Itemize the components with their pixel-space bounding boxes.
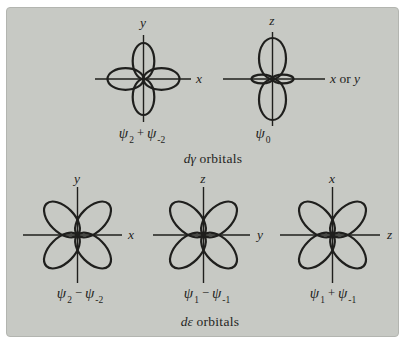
psi-symbol: ψ [310,285,319,301]
axis-label-vertical: z [269,12,274,29]
orbital-plot-d-z2 [223,32,325,126]
d-gamma-caption: dγ orbitals [184,151,243,167]
operator: + [328,286,335,300]
psi-subscript: -2 [157,135,165,145]
formula-psi1-plus-psi-neg1: ψ1+ψ-1 [310,285,356,303]
axis-label-horizontal: x or y [330,70,360,87]
orbital-plot-d-x2-y2 [95,35,191,122]
caption-symbol: dε [181,314,193,329]
formula-psi2-plus-psi-neg2: ψ2+ψ-2 [119,125,165,143]
formula-psi0: ψ0 [255,125,270,143]
orbital-plot-d-xy [23,187,122,283]
psi-subscript: 1 [320,295,325,305]
psi-symbol: ψ [147,125,156,141]
psi-subscript: 0 [266,135,271,145]
psi-symbol: ψ [57,285,66,301]
caption-text: orbitals [193,314,240,329]
axis-label-horizontal: z [387,226,392,243]
axis-label-horizontal: x [128,226,134,243]
psi-symbol: ψ [338,285,347,301]
psi-subscript: 2 [129,135,134,145]
psi-symbol: ψ [255,125,264,141]
psi-symbol: ψ [212,285,221,301]
psi-subscript: -1 [348,295,356,305]
axis-label-horizontal: x [196,70,202,87]
axis-label-vertical: z [200,170,205,187]
psi-subscript: 1 [194,295,199,305]
psi-symbol: ψ [184,285,193,301]
orbital-plot-d-zx [280,187,380,283]
caption-symbol: dγ [184,151,196,166]
axis-label-horizontal: y [257,226,263,243]
formula-psi1-minus-psi-neg1: ψ1−ψ-1 [184,285,230,303]
operator: + [137,126,144,140]
d-epsilon-caption: dε orbitals [181,314,240,330]
axis-letter: x [128,227,134,242]
caption-text: orbitals [196,151,243,166]
axis-label-vertical: y [140,14,146,31]
axis-letter: x [196,71,202,86]
psi-subscript: -1 [222,295,230,305]
operator: − [202,286,209,300]
axis-letter: y [354,71,360,86]
axis-letter: z [387,227,392,242]
psi-subscript: -2 [95,295,103,305]
operator: − [75,286,82,300]
axis-letter: y [257,227,263,242]
psi-symbol: ψ [119,125,128,141]
axis-label-vertical: y [74,170,80,187]
psi-subscript: 2 [67,295,72,305]
formula-psi2-minus-psi-neg2: ψ2−ψ-2 [57,285,103,303]
axis-label-conjunction: or [336,71,354,86]
figure-page: y x z x or y y x z y x z ψ2+ψ-2 ψ0 ψ2−ψ-… [0,0,413,349]
psi-symbol: ψ [85,285,94,301]
axis-label-vertical: x [329,170,335,187]
orbital-plot-d-yz [153,187,250,283]
